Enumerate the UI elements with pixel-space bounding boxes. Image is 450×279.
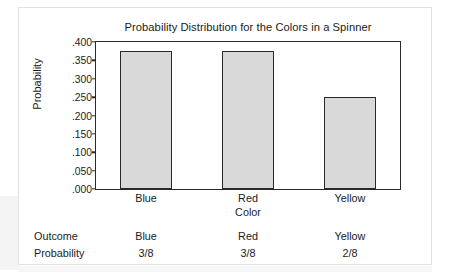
y-axis-tick-label: .000: [52, 184, 92, 195]
x-axis-label: Color: [95, 206, 401, 218]
y-axis-label: Probability: [31, 44, 43, 124]
table-row-header: Probability: [34, 247, 84, 259]
table-cell: 3/8: [138, 247, 153, 259]
figure-canvas: Probability Distribution for the Colors …: [0, 0, 450, 279]
y-axis-tick-label: .150: [52, 128, 92, 139]
table-row: Probability3/83/82/8: [34, 247, 424, 264]
table-cell: 2/8: [342, 247, 357, 259]
x-axis-tick-label: Blue: [135, 192, 157, 204]
page-edge-shadow-bottom: [18, 266, 432, 272]
y-axis-tick-labels: .400.350.300.250.200.150.100.050.000: [48, 41, 92, 189]
table-row-header: Outcome: [34, 230, 78, 242]
y-axis-tick-label: .350: [52, 55, 92, 66]
y-axis-tick-label: .250: [52, 92, 92, 103]
probability-table: OutcomeBlueRedYellowProbability3/83/82/8: [34, 230, 424, 264]
y-axis-tick-label: .400: [52, 37, 92, 48]
y-axis-tick-label: .200: [52, 110, 92, 121]
table-cell: Yellow: [335, 230, 366, 242]
table-cell: Blue: [135, 230, 157, 242]
y-axis-tick-label: .300: [52, 73, 92, 84]
x-axis-tick-label: Yellow: [335, 192, 366, 204]
chart-title: Probability Distribution for the Colors …: [95, 21, 401, 33]
table-cell: 3/8: [240, 247, 255, 259]
page-edge-shadow-left: [0, 196, 18, 270]
table-row: OutcomeBlueRedYellow: [34, 230, 424, 247]
table-cell: Red: [238, 230, 258, 242]
bar: [324, 97, 376, 189]
bar: [222, 51, 274, 189]
y-axis-tick-label: .100: [52, 147, 92, 158]
x-axis-tick-label: Red: [238, 192, 258, 204]
bar: [120, 51, 172, 189]
y-axis-tick-label: .050: [52, 165, 92, 176]
